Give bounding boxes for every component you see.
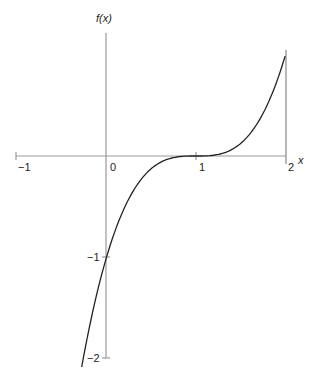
x-axis-label: x — [297, 154, 304, 166]
x-tick-1: 1 — [199, 161, 205, 173]
y-tick-m2: −2 — [87, 352, 100, 364]
x-tick-0: 0 — [110, 161, 116, 173]
y-axis-label: f(x) — [96, 12, 112, 24]
x-tick-m1: −1 — [18, 161, 31, 173]
x-tick-2: 2 — [288, 161, 294, 173]
y-tick-m1: −1 — [87, 251, 100, 263]
curve-f — [82, 56, 285, 367]
function-plot: f(x) x −1 0 1 2 −1 −2 — [0, 0, 319, 375]
